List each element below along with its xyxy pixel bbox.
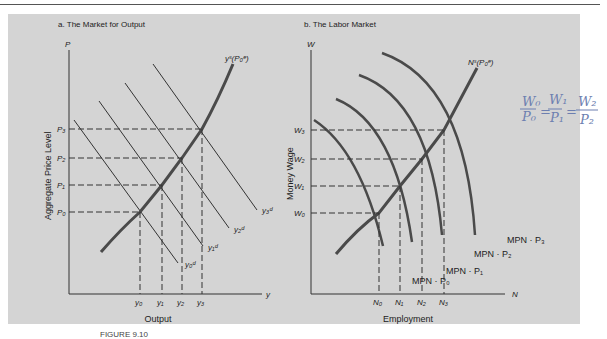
- demand-label-mpn-p2: MPN · P₂: [474, 249, 512, 259]
- svg-text:=: =: [566, 104, 577, 119]
- demand-label-mpn-p1: MPN · P₁: [446, 266, 483, 276]
- supply-label-a: yˢ(P₀ᵉ): [224, 54, 249, 63]
- tick-p2: P₂: [57, 154, 65, 163]
- tick-p0: P₀: [57, 208, 66, 217]
- demand-label-mpn-p0: MPN · P₀: [412, 276, 450, 286]
- tick-p3: P₃: [57, 125, 66, 134]
- panel-a-y-symbol: P: [65, 40, 71, 49]
- panel-b-title: b. The Labor Market: [304, 20, 377, 29]
- tick-n1: N₁: [395, 298, 404, 307]
- panel-b-x-label: Employment: [383, 314, 434, 324]
- panel-a-x-symbol: y: [265, 290, 271, 299]
- svg-text:W₂: W₂: [578, 94, 597, 109]
- panel-b-y-symbol: W: [307, 40, 316, 49]
- demand-curve-y3d: [153, 64, 257, 210]
- demand-curve-mpn-p2: [359, 75, 442, 235]
- demand-curve-y1d: [99, 101, 203, 246]
- svg-text:P₁: P₁: [549, 110, 564, 125]
- tick-y1: y₁: [156, 298, 164, 307]
- figure-caption: FIGURE 9.10: [100, 330, 149, 339]
- demand-label-y0d: y₀ᵈ: [184, 260, 196, 269]
- demand-label-y1d: y₁ᵈ: [207, 243, 219, 252]
- demand-curve-mpn-p1: [336, 99, 412, 242]
- tick-w0: W₀: [294, 209, 306, 218]
- tick-n2: N₂: [417, 298, 426, 307]
- tick-y2: y₂: [176, 298, 184, 307]
- panel-a-x-label: Output: [144, 314, 172, 324]
- handwritten-annotation: W₀ P₀ = W₁ P₁ = W₂ P₂: [520, 92, 598, 127]
- svg-text:P₀: P₀: [521, 109, 537, 124]
- supply-curve-ys: [101, 64, 233, 252]
- svg-text:W₀: W₀: [522, 94, 541, 109]
- tick-w1: W₁: [294, 182, 305, 191]
- svg-text:P₂: P₂: [579, 112, 594, 127]
- figure-svg: a. The Market for Output P y Aggregate P…: [0, 0, 607, 339]
- svg-text:W₁: W₁: [549, 92, 568, 107]
- demand-label-y2d: y₂ᵈ: [233, 225, 245, 234]
- tick-w2: W₂: [294, 155, 305, 164]
- panel-a-y-label: Aggregate Price Level: [43, 131, 53, 220]
- demand-curve-mpn-p0: [314, 120, 383, 246]
- tick-p1: P₁: [57, 181, 65, 190]
- panel-b-x-symbol: N: [512, 290, 518, 299]
- supply-curve-ns: [336, 68, 477, 254]
- tick-n3: N₃: [439, 298, 448, 307]
- demand-label-mpn-p3: MPN · P₃: [507, 235, 545, 245]
- tick-n0: N₀: [373, 298, 383, 307]
- panel-a-title: a. The Market for Output: [58, 20, 146, 29]
- tick-y0: y₀: [134, 298, 143, 307]
- demand-label-y3d: y₃ᵈ: [261, 206, 273, 215]
- tick-y3: y₃: [196, 298, 204, 307]
- supply-label-b: Nˢ(P₀ᵉ): [468, 58, 494, 67]
- demand-curve-mpn-p3: [382, 53, 475, 235]
- panel-a-guides: [69, 129, 202, 294]
- tick-w3: W₃: [294, 126, 305, 135]
